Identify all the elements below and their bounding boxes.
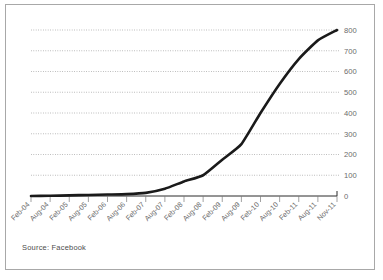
x-axis-tick-label: Feb-09	[200, 200, 222, 222]
x-axis-tick-label: Aug-07	[143, 200, 166, 223]
x-axis-tick-label: Feb-10	[238, 200, 260, 222]
x-axis-tick-label: Aug-11	[296, 200, 318, 222]
x-axis-tick-label: Feb-11	[277, 200, 299, 222]
line-chart: 0100200300400500600700800Feb-04Aug-04Feb…	[0, 0, 383, 280]
y-axis-tick-label: 700	[344, 47, 357, 56]
y-axis-tick-label: 400	[344, 109, 357, 118]
chart-figure: 0100200300400500600700800Feb-04Aug-04Feb…	[0, 0, 383, 280]
x-axis-tick-label: Nov-11	[315, 200, 337, 222]
y-axis-tick-label: 100	[344, 171, 357, 180]
x-axis-tick-label: Aug-10	[257, 200, 280, 223]
x-axis-tick-label: Aug-04	[28, 200, 51, 223]
x-axis-tick-label: Aug-06	[104, 200, 127, 223]
x-axis-tick-label: Feb-08	[162, 200, 184, 222]
y-axis-tick-label: 800	[344, 26, 357, 35]
source-note: Source: Facebook	[22, 243, 86, 252]
x-axis-tick-label: Aug-08	[181, 200, 204, 223]
x-axis-tick-label: Aug-09	[219, 200, 242, 223]
y-axis-tick-label: 500	[344, 88, 357, 97]
y-axis-tick-label: 600	[344, 67, 357, 76]
y-axis-tick-label: 300	[344, 130, 357, 139]
x-axis-tick-label: Feb-04	[9, 200, 31, 222]
y-axis-tick-label: 200	[344, 150, 357, 159]
y-axis-tick-label: 0	[344, 192, 348, 201]
x-axis-tick-label: Aug-05	[66, 200, 89, 223]
x-axis-tick-label: Feb-07	[124, 200, 146, 222]
x-axis-tick-label: Feb-06	[85, 200, 107, 222]
x-axis-tick-label: Feb-05	[47, 200, 69, 222]
